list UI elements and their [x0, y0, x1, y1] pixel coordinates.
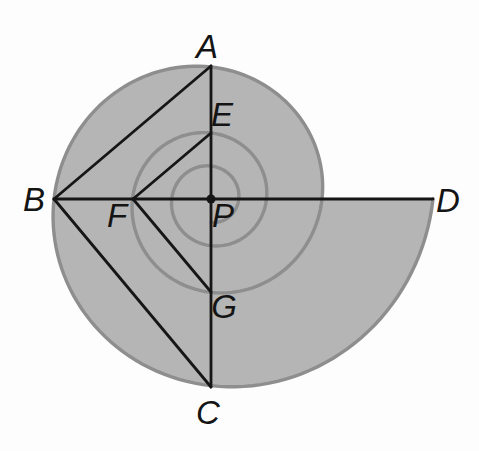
point-label-F: F	[107, 197, 129, 234]
spiral-diagram-svg: ABCDEFGP	[0, 0, 479, 451]
spiral-figure: ABCDEFGP	[0, 0, 479, 451]
point-label-E: E	[211, 96, 234, 133]
point-label-D: D	[436, 182, 460, 219]
point-label-P: P	[212, 197, 234, 234]
point-label-B: B	[23, 181, 45, 218]
point-label-G: G	[211, 288, 237, 325]
point-label-A: A	[194, 28, 218, 65]
point-label-C: C	[196, 394, 221, 431]
